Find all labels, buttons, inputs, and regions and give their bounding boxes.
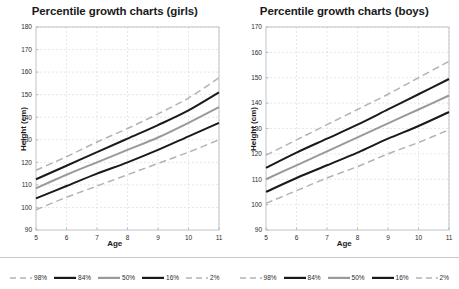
legend-label-2pct: 2%: [440, 274, 449, 281]
legend-entry-16pct: 16%: [142, 274, 179, 281]
legend-entry-98pct: 98%: [10, 274, 47, 281]
legend-swatch-16pct: [142, 276, 164, 279]
svg-text:100: 100: [251, 201, 262, 208]
legend-label-16pct: 16%: [396, 274, 409, 281]
legend-girls: 98%84%50%16%2%: [0, 258, 230, 289]
legend-swatch-2pct: [416, 276, 438, 279]
svg-text:150: 150: [251, 74, 262, 81]
legend-label-50pct: 50%: [122, 274, 135, 281]
legend-swatch-50pct: [328, 276, 350, 279]
plot-area-girls: 90100110120130140150160170180567891011: [0, 0, 230, 258]
legend-entry-50pct: 50%: [328, 274, 365, 281]
figure-legend: 98%84%50%16%2% 98%84%50%16%2%: [0, 257, 459, 289]
legend-swatch-98pct: [10, 276, 32, 279]
legend-label-84pct: 84%: [78, 274, 91, 281]
x-axis-label-boys: Age: [230, 239, 459, 248]
charts-row: Percentile growth charts (girls) Height …: [0, 0, 459, 258]
legend-entry-98pct: 98%: [240, 274, 277, 281]
legend-label-16pct: 16%: [166, 274, 179, 281]
svg-text:180: 180: [21, 23, 32, 30]
plot-area-boys: 90100110120130140150160170567891011: [230, 0, 459, 258]
svg-text:130: 130: [21, 136, 32, 143]
legend-swatch-84pct: [284, 276, 306, 279]
svg-text:110: 110: [22, 181, 33, 188]
legend-label-2pct: 2%: [210, 274, 219, 281]
svg-text:130: 130: [251, 125, 262, 132]
svg-text:90: 90: [254, 226, 262, 233]
growth-charts-figure: Percentile growth charts (girls) Height …: [0, 0, 459, 289]
svg-text:150: 150: [21, 91, 32, 98]
legend-entry-2pct: 2%: [186, 274, 219, 281]
svg-text:140: 140: [21, 114, 32, 121]
svg-text:120: 120: [251, 150, 262, 157]
legend-entry-50pct: 50%: [98, 274, 135, 281]
legend-entry-2pct: 2%: [416, 274, 449, 281]
svg-text:100: 100: [21, 204, 32, 211]
legend-swatch-98pct: [240, 276, 262, 279]
legend-swatch-16pct: [372, 276, 394, 279]
legend-label-98pct: 98%: [264, 274, 277, 281]
svg-text:170: 170: [251, 23, 262, 30]
chart-panel-girls: Percentile growth charts (girls) Height …: [0, 0, 230, 258]
chart-panel-boys: Percentile growth charts (boys) Height (…: [230, 0, 459, 258]
legend-label-84pct: 84%: [308, 274, 321, 281]
svg-text:160: 160: [21, 68, 32, 75]
legend-entry-84pct: 84%: [284, 274, 321, 281]
svg-text:170: 170: [21, 46, 32, 53]
x-axis-label-girls: Age: [0, 239, 230, 248]
legend-swatch-50pct: [98, 276, 120, 279]
legend-boys: 98%84%50%16%2%: [230, 258, 459, 289]
svg-text:110: 110: [251, 176, 262, 183]
legend-entry-16pct: 16%: [372, 274, 409, 281]
svg-text:90: 90: [25, 226, 33, 233]
svg-text:160: 160: [251, 49, 262, 56]
svg-text:140: 140: [251, 99, 262, 106]
legend-label-98pct: 98%: [34, 274, 47, 281]
svg-text:120: 120: [21, 159, 32, 166]
legend-swatch-84pct: [54, 276, 76, 279]
legend-swatch-2pct: [186, 276, 208, 279]
legend-entry-84pct: 84%: [54, 274, 91, 281]
legend-label-50pct: 50%: [352, 274, 365, 281]
